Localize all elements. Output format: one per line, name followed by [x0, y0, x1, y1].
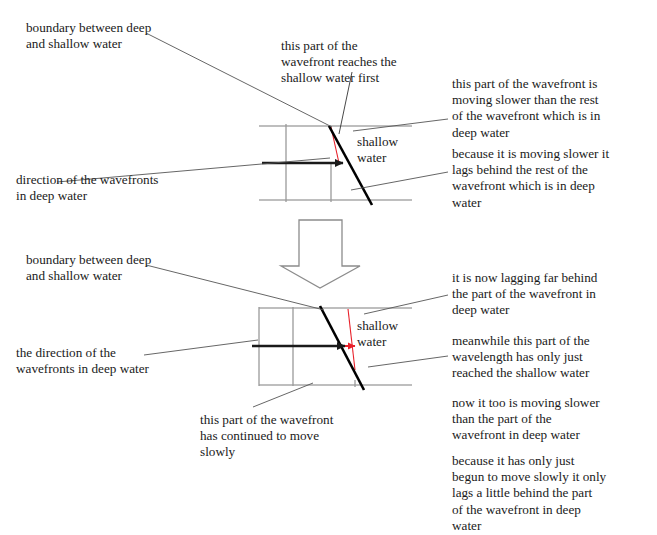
top-moving-slower-label: this part of the wavefront is moving slo…: [452, 76, 657, 141]
bottom-direction-label: the direction of the wavefronts in deep …: [16, 345, 231, 377]
bottom-now-too-slower-label: now it too is moving slower than the par…: [452, 395, 657, 444]
top-lags-behind-leader-line: [351, 172, 448, 190]
top-direction-label: direction of the wavefronts in deep wate…: [16, 172, 231, 204]
bottom-boundary-label: boundary between deep and shallow water: [26, 252, 241, 284]
bottom-shallow-water-label: shallow water: [357, 318, 421, 350]
top-reaches-first-label: this part of the wavefront reaches the s…: [281, 38, 441, 87]
bottom-lags-a-little-label: because it has only just begun to move s…: [452, 453, 657, 534]
top-boundary-label: boundary between deep and shallow water: [26, 20, 241, 52]
top-lags-behind-label: because it is moving slower it lags behi…: [452, 146, 657, 211]
top-shallow-water-label: shallow water: [357, 134, 421, 166]
down-block-arrow: [281, 220, 360, 288]
bottom-lagging-far-leader-line: [364, 295, 448, 314]
bottom-meanwhile-label: meanwhile this part of the wavelength ha…: [452, 333, 657, 382]
bottom-continued-slowly-leader-line: [253, 383, 313, 407]
bottom-continued-slowly-label: this part of the wavefront has continued…: [200, 412, 390, 461]
bottom-meanwhile-leader-line: [368, 356, 448, 367]
bottom-lagging-far-label: it is now lagging far behind the part of…: [452, 270, 657, 319]
top-moving-slower-leader-line: [353, 119, 448, 131]
